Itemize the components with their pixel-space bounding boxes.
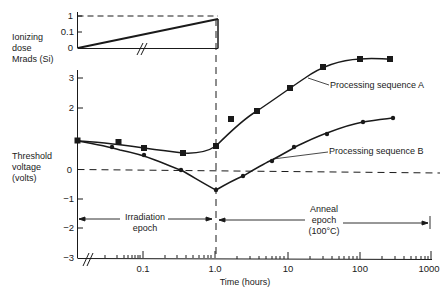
irradiation-label-line1: Irradiation (125, 212, 165, 223)
dose-ramp (78, 19, 218, 48)
x-axis-ticks (105, 251, 431, 259)
vt-ylabel-line1: Threshold (12, 151, 52, 162)
series-b-label: Processing sequence B (329, 146, 424, 157)
dose-ylabel-line1: Ionizing (12, 32, 43, 43)
anneal-label-line3: (100°C) (308, 226, 339, 237)
vt-ylabel-line2: voltage (12, 162, 41, 173)
x-tick-0-1: 0.1 (136, 263, 149, 274)
series-a-curve (78, 59, 390, 154)
x-tick-1000: 1000 (418, 263, 439, 274)
vt-tick-3: 3 (69, 72, 74, 83)
dose-ylabel-line2: dose (12, 43, 32, 54)
vt-tick-2: 2 (69, 102, 74, 113)
vt-ylabel-line3: (volts) (12, 173, 37, 184)
x-axis-label: Time (hours) (220, 277, 271, 288)
irradiation-label-line2: epoch (133, 223, 158, 234)
vt-tick-0: 0 (67, 164, 72, 175)
series-a-leader (308, 78, 329, 85)
series-a-markers (75, 56, 394, 156)
dose-tick-0: 0 (68, 42, 73, 53)
anneal-label-line2: epoch (312, 215, 337, 226)
x-tick-1: 1.0 (208, 263, 221, 274)
dose-tick-0-1: 0.1 (61, 26, 74, 37)
zero-reference-line (78, 170, 441, 174)
vt-tick-minus3: −3 (63, 252, 74, 263)
vt-tick-minus2: −2 (63, 222, 74, 233)
series-a-label: Processing sequence A (330, 80, 424, 91)
dose-tick-1: 1 (68, 10, 73, 21)
x-tick-10: 10 (283, 263, 294, 274)
x-axis (78, 259, 433, 260)
vt-tick-minus1: −1 (63, 193, 74, 204)
anneal-label-line1: Anneal (310, 204, 338, 215)
x-tick-100: 100 (352, 263, 368, 274)
dose-ylabel-line3: Mrads (Si) (12, 54, 54, 65)
